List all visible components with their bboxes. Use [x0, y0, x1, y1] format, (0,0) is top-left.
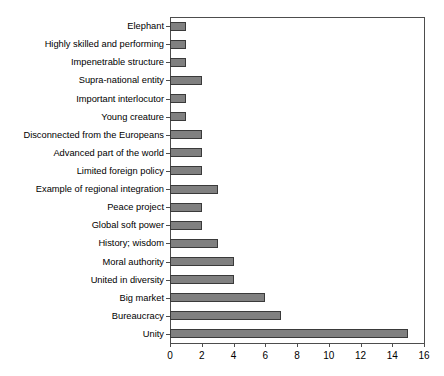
category-label: United in diversity [0, 274, 164, 286]
category-label: Peace project [0, 201, 164, 213]
category-label: Highly skilled and performing [0, 38, 164, 50]
axis-top-spine [170, 17, 425, 18]
category-label: Unity [0, 328, 164, 340]
value-tick [297, 343, 298, 347]
bar [170, 94, 186, 103]
value-tick-label: 12 [346, 350, 376, 362]
category-label: Disconnected from the Europeans [0, 129, 164, 141]
category-label: Moral authority [0, 256, 164, 268]
category-label: Limited foreign policy [0, 165, 164, 177]
bar-chart: ElephantHighly skilled and performingImp… [0, 0, 444, 376]
category-label: Global soft power [0, 219, 164, 231]
bar [170, 293, 265, 302]
value-tick [202, 343, 203, 347]
bar [170, 203, 202, 212]
bar [170, 239, 218, 248]
category-label: Advanced part of the world [0, 147, 164, 159]
value-tick-label: 4 [219, 350, 249, 362]
value-tick-label: 10 [314, 350, 344, 362]
bar [170, 311, 281, 320]
value-tick-label: 16 [409, 350, 439, 362]
bar [170, 185, 218, 194]
bar [170, 275, 234, 284]
bar [170, 221, 202, 230]
value-tick [329, 343, 330, 347]
value-tick [361, 343, 362, 347]
value-tick-label: 8 [282, 350, 312, 362]
value-tick-label: 6 [250, 350, 280, 362]
category-label: Supra-national entity [0, 74, 164, 86]
bar [170, 166, 202, 175]
bar [170, 58, 186, 67]
value-tick [170, 343, 171, 347]
bar [170, 112, 186, 121]
bar [170, 148, 202, 157]
category-label: Impenetrable structure [0, 56, 164, 68]
category-label: Big market [0, 292, 164, 304]
value-tick [265, 343, 266, 347]
category-label: Important interlocutor [0, 93, 164, 105]
bar [170, 40, 186, 49]
bar [170, 130, 202, 139]
category-label: Example of regional integration [0, 183, 164, 195]
value-tick [424, 343, 425, 347]
bar [170, 76, 202, 85]
axis-right-spine [424, 17, 425, 344]
value-tick-label: 14 [377, 350, 407, 362]
value-tick [392, 343, 393, 347]
bar [170, 22, 186, 31]
value-tick [234, 343, 235, 347]
category-label: Young creature [0, 111, 164, 123]
category-label: Bureaucracy [0, 310, 164, 322]
value-tick-label: 0 [155, 350, 185, 362]
category-label: Elephant [0, 20, 164, 32]
category-label: History; wisdom [0, 237, 164, 249]
bar [170, 329, 408, 338]
bar [170, 257, 234, 266]
value-tick-label: 2 [187, 350, 217, 362]
